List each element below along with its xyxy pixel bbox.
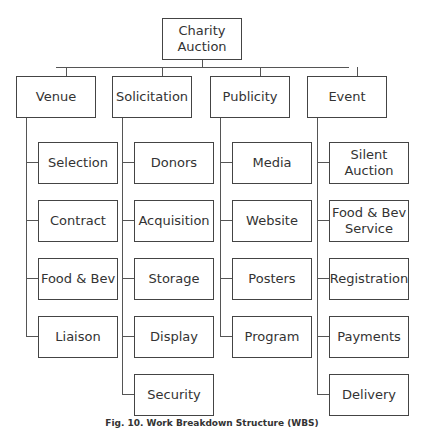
leaf-node: Posters: [232, 258, 312, 300]
leaf-node: Contract: [38, 200, 118, 242]
connector-line: [317, 162, 329, 163]
leaf-node: Donors: [134, 142, 214, 184]
connector-line: [122, 220, 134, 221]
connector-line: [317, 278, 329, 279]
leaf-node: Display: [134, 316, 214, 358]
leaf-node: Food & BevService: [329, 200, 409, 242]
connector-line: [26, 220, 38, 221]
leaf-node: Payments: [329, 316, 409, 358]
figure-caption: Fig. 10. Work Breakdown Structure (WBS): [0, 418, 424, 428]
connector-line: [220, 162, 232, 163]
connector-line: [162, 67, 163, 76]
leaf-node: Program: [232, 316, 312, 358]
connector-line: [317, 220, 329, 221]
connector-line: [317, 394, 329, 395]
connector-line: [122, 118, 123, 395]
connector-line: [122, 162, 134, 163]
connector-line: [122, 278, 134, 279]
connector-line: [56, 67, 349, 68]
leaf-node: Delivery: [329, 374, 409, 416]
connector-line: [122, 394, 134, 395]
connector-line: [317, 118, 318, 395]
connector-line: [26, 118, 27, 337]
connector-line: [220, 118, 221, 337]
connector-line: [317, 336, 329, 337]
connector-line: [122, 336, 134, 337]
leaf-node: Storage: [134, 258, 214, 300]
leaf-node: Security: [134, 374, 214, 416]
connector-line: [260, 67, 261, 76]
leaf-node: Liaison: [38, 316, 118, 358]
connector-line: [26, 278, 38, 279]
leaf-node: Food & Bev: [38, 258, 118, 300]
leaf-node: Website: [232, 200, 312, 242]
branch-node-venue: Venue: [16, 76, 96, 118]
connector-line: [357, 67, 358, 76]
connector-line: [66, 67, 67, 76]
connector-line: [26, 336, 38, 337]
connector-line: [220, 220, 232, 221]
connector-line: [220, 278, 232, 279]
connector-line: [220, 336, 232, 337]
branch-node-solicitation: Solicitation: [112, 76, 192, 118]
branch-node-publicity: Publicity: [210, 76, 290, 118]
leaf-node: Acquisition: [134, 200, 214, 242]
leaf-node: Media: [232, 142, 312, 184]
connector-line: [26, 162, 38, 163]
leaf-node: Selection: [38, 142, 118, 184]
leaf-node: SilentAuction: [329, 142, 409, 184]
leaf-node: Registration: [329, 258, 409, 300]
root-node: CharityAuction: [162, 18, 242, 60]
branch-node-event: Event: [307, 76, 387, 118]
